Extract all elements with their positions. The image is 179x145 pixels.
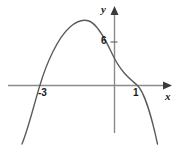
y-intercept-label: 6	[101, 36, 107, 46]
x-intercept-left-label: -3	[38, 88, 47, 98]
x-intercept-right-label: 1	[133, 88, 139, 98]
arrow-right-icon	[163, 82, 172, 90]
parabola-coordinate-graph: y x 6 -3 1	[0, 0, 179, 145]
graph-canvas	[0, 0, 179, 145]
parabola-curve	[22, 20, 158, 144]
x-axis-label: x	[165, 91, 171, 102]
arrow-up-icon	[111, 6, 119, 15]
y-axis-label: y	[101, 4, 106, 15]
